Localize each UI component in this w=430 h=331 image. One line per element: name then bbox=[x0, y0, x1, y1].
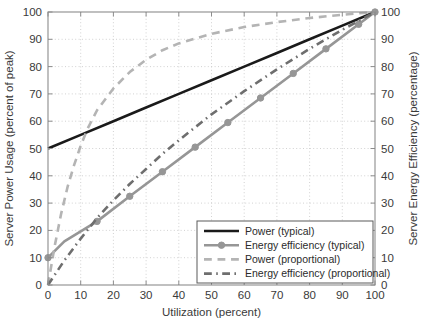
y2-tick-label: 10 bbox=[381, 252, 394, 264]
y-tick-label: 0 bbox=[36, 279, 42, 291]
x-tick-label: 40 bbox=[172, 289, 185, 301]
legend-swatch-marker bbox=[218, 242, 224, 248]
series-marker bbox=[127, 193, 133, 199]
legend-item-label: Power (typical) bbox=[245, 225, 314, 237]
chart-canvas: 0102030405060708090100001010202030304040… bbox=[0, 0, 430, 331]
y2-tick-label: 30 bbox=[381, 197, 394, 209]
x-tick-label: 90 bbox=[336, 289, 349, 301]
x-tick-label: 20 bbox=[107, 289, 120, 301]
y-tick-label: 90 bbox=[29, 33, 42, 45]
chart-legend: Power (typical)Energy efficiency (typica… bbox=[197, 221, 390, 283]
y2-tick-label: 40 bbox=[381, 170, 394, 182]
y-tick-label: 70 bbox=[29, 88, 42, 100]
y2-tick-label: 90 bbox=[381, 33, 394, 45]
series-marker bbox=[192, 144, 198, 150]
x-tick-label: 0 bbox=[45, 289, 51, 301]
y-tick-label: 30 bbox=[29, 197, 42, 209]
series-marker bbox=[159, 169, 165, 175]
y2-tick-label: 100 bbox=[381, 6, 400, 18]
legend-item-label: Energy efficiency (typical) bbox=[245, 239, 364, 251]
y-tick-label: 60 bbox=[29, 115, 42, 127]
legend-item-label: Power (proportional) bbox=[245, 253, 340, 265]
y2-axis-label: Server Energy Efficiency (percentage) bbox=[407, 51, 419, 245]
y-tick-label: 40 bbox=[29, 170, 42, 182]
y-axis-label: Server Power Usage (percent of peak) bbox=[3, 50, 15, 246]
y-tick-label: 100 bbox=[23, 6, 42, 18]
y2-tick-label: 60 bbox=[381, 115, 394, 127]
x-axis-label: Utilization (percent) bbox=[162, 306, 261, 318]
x-tick-label: 80 bbox=[303, 289, 316, 301]
y2-tick-label: 70 bbox=[381, 88, 394, 100]
y-tick-label: 80 bbox=[29, 61, 42, 73]
series-marker bbox=[323, 46, 329, 52]
y-tick-label: 20 bbox=[29, 224, 42, 236]
y-tick-label: 10 bbox=[29, 252, 42, 264]
series-marker bbox=[290, 70, 296, 76]
x-tick-label: 10 bbox=[74, 289, 87, 301]
series-marker bbox=[355, 21, 361, 27]
series-marker bbox=[257, 95, 263, 101]
x-tick-label: 50 bbox=[205, 289, 218, 301]
x-tick-label: 60 bbox=[238, 289, 251, 301]
y2-tick-label: 50 bbox=[381, 143, 394, 155]
y2-tick-label: 80 bbox=[381, 61, 394, 73]
y-tick-label: 50 bbox=[29, 143, 42, 155]
chart-figure: 0102030405060708090100001010202030304040… bbox=[0, 0, 430, 331]
x-tick-label: 30 bbox=[140, 289, 153, 301]
series-marker bbox=[225, 119, 231, 125]
x-tick-label: 70 bbox=[271, 289, 284, 301]
y2-tick-label: 20 bbox=[381, 224, 394, 236]
y2-tick-label: 0 bbox=[381, 279, 387, 291]
legend-item-label: Energy efficiency (proportional) bbox=[245, 267, 390, 279]
